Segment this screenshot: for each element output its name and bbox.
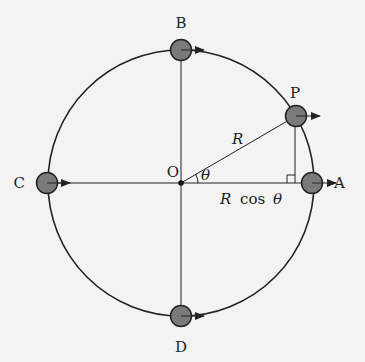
circular-motion-diagram: B P A C D O θ R R cos θ: [0, 0, 365, 362]
right-angle-marker: [287, 175, 295, 183]
angle-arc: [196, 175, 198, 184]
label-B: B: [175, 14, 186, 32]
center-point: [178, 180, 184, 186]
label-R-cos-theta: R cos θ: [219, 190, 282, 208]
label-R-part: R: [219, 190, 231, 208]
ball-P: [286, 106, 321, 127]
ball-A: [302, 173, 337, 194]
label-theta: θ: [201, 166, 210, 184]
ball-C: [37, 173, 71, 194]
label-R: R: [231, 130, 243, 148]
label-cos-part: cos: [240, 190, 265, 208]
label-D: D: [175, 338, 187, 356]
ball-B: [171, 40, 205, 61]
radius-line: [181, 116, 296, 183]
diagram-canvas: B P A C D O θ R R cos θ: [0, 0, 365, 362]
label-C: C: [14, 174, 25, 192]
label-theta-part: θ: [273, 190, 282, 208]
label-O: O: [167, 163, 179, 181]
label-P: P: [290, 84, 300, 102]
ball-D: [171, 306, 205, 327]
label-A: A: [333, 174, 345, 192]
